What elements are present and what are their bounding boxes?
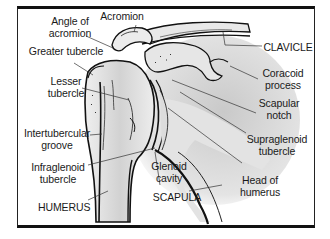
label-intertubercular-groove: Intertubercular groove bbox=[22, 127, 92, 151]
label-glenoid-cavity: Glenoid cavity bbox=[146, 160, 192, 184]
label-scapular-notch: Scapular notch bbox=[254, 97, 304, 121]
label-head-of-humerus: Head of humerus bbox=[236, 174, 284, 198]
label-supraglenoid-tubercle: Supraglenoid tubercle bbox=[244, 133, 310, 157]
label-angle-of-acromion: Angle of acromion bbox=[39, 15, 101, 39]
label-coracoid-process: Coracoid process bbox=[258, 67, 308, 91]
label-lesser-tubercle: Lesser tubercle bbox=[44, 75, 88, 99]
label-humerus: HUMERUS bbox=[38, 201, 90, 213]
label-acromion: Acromion bbox=[98, 10, 146, 22]
label-scapula: SCAPULA bbox=[152, 191, 202, 203]
label-greater-tubercle: Greater tubercle bbox=[26, 45, 106, 57]
label-infraglenoid-tubercle: Infraglenoid tubercle bbox=[28, 161, 88, 185]
humerus-head bbox=[85, 60, 154, 222]
acromion-bone bbox=[112, 28, 152, 51]
label-clavicle: CLAVICLE bbox=[262, 41, 314, 53]
